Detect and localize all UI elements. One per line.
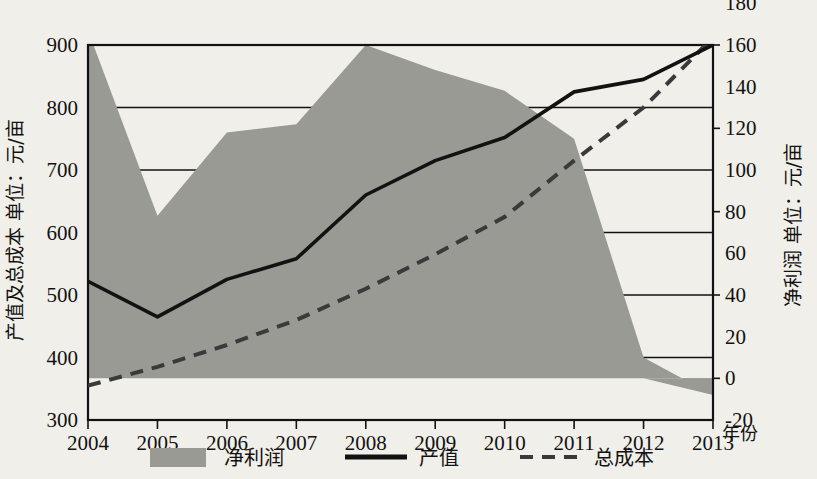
legend-label: 总成本	[594, 446, 654, 470]
right-tick-label: 160	[725, 33, 757, 57]
right-tick-label: 100	[725, 158, 757, 182]
left-tick-label: 400	[47, 346, 79, 370]
left-tick-label: 700	[47, 158, 79, 182]
x-tick-label: 2011	[553, 431, 594, 455]
right-tick-label: 20	[725, 325, 746, 349]
x-axis-title: 年份	[722, 423, 758, 444]
left-tick-label: 300	[47, 408, 79, 432]
left-tick-label: 500	[47, 283, 79, 307]
chart-canvas: 300400500600700800900 -20020406080100120…	[0, 0, 817, 479]
left-tick-label: 600	[47, 221, 79, 245]
x-tick-label: 2010	[484, 431, 526, 455]
right-tick-label: 140	[725, 75, 757, 99]
legend-label: 净利润	[224, 446, 284, 470]
right-tick-label: 0	[725, 366, 736, 390]
legend-label: 产值	[419, 446, 459, 470]
right-tick-label: 80	[725, 200, 746, 224]
right-tick-label: 40	[725, 283, 746, 307]
right-tick-label: 60	[725, 241, 746, 265]
legend-swatch-area	[150, 448, 206, 467]
right-tick-label: 180	[725, 0, 757, 15]
x-tick-label: 2008	[345, 431, 387, 455]
right-tick-label: 120	[725, 116, 757, 140]
x-tick-label: 2004	[67, 431, 110, 455]
left-tick-label: 800	[47, 96, 79, 120]
chart-figure: 300400500600700800900 -20020406080100120…	[0, 0, 817, 479]
right-axis-title: 净利润 单位：元/亩	[782, 143, 804, 307]
left-tick-label: 900	[47, 33, 79, 57]
left-axis-title: 产值及总成本 单位：元/亩	[4, 119, 26, 340]
